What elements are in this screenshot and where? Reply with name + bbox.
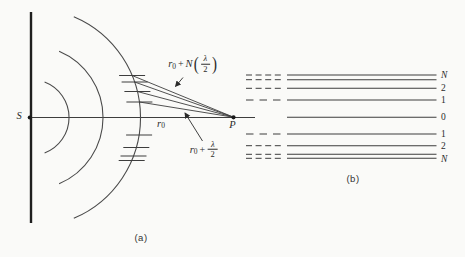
source-point-dot — [28, 115, 32, 119]
arrow-to-ray-N — [176, 78, 184, 87]
level-label-lower-2: 2 — [441, 141, 446, 151]
level-label-upper-N: N — [441, 70, 447, 80]
wavefront-zones-figure: S P r0 r0 + N ( λ 2 ) r0 + λ 2 N 2 1 0 1… — [0, 0, 465, 257]
level-label-upper-2: 2 — [441, 83, 446, 93]
caption-panel-a: (a) — [134, 232, 147, 243]
label-r0: r0 — [157, 118, 165, 129]
label-r0-plus-half-lambda: r0 + λ 2 — [190, 139, 219, 160]
ray-zone-3 — [135, 82, 234, 117]
caption-panel-b: (b) — [346, 172, 359, 183]
level-label-lower-N: N — [441, 154, 447, 164]
label-r0-plus-N-half-lambda: r0 + N ( λ 2 ) — [168, 54, 218, 75]
source-label: S — [16, 110, 21, 121]
ray-zone-N — [132, 76, 233, 118]
level-label-upper-1: 1 — [441, 95, 446, 105]
observation-point-label: P — [229, 119, 235, 130]
level-label-zero: 0 — [441, 112, 446, 122]
level-label-lower-1: 1 — [441, 129, 446, 139]
